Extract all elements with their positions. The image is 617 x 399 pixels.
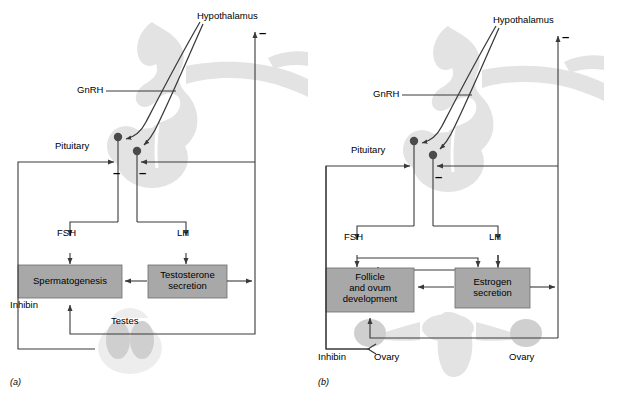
label-gnrh: GnRH [373,89,399,99]
minus-sign-pituitary-left: – [113,166,120,179]
label-ovary-left: Ovary [374,352,399,362]
box-label-follicle-line3: development [326,294,414,305]
label-pituitary: Pituitary [55,141,89,151]
nerve-terminal-dot-right [133,147,141,155]
label-hypothalamus: Hypothalamus [493,15,554,25]
panel-b-graphic [308,0,617,399]
box-label-testosterone-line2: secretion [148,281,227,292]
minus-sign-pituitary-right: – [435,170,442,183]
fsh-branch [357,226,414,240]
label-inhibin: Inhibin [318,352,346,362]
panel-b-female-axis: Hypothalamus GnRH Pituitary FSH LH Inhib… [308,0,616,399]
box-label-follicle-line1: Follicle [326,272,414,283]
box-label-follicle-line2: and ovum [326,283,414,294]
label-lh: LH [177,228,189,238]
panel-a-graphic [0,0,308,399]
label-pituitary: Pituitary [351,145,385,155]
label-testes: Testes [111,316,138,326]
box-label-testosterone-line1: Testosterone [148,270,227,281]
box-label-estrogen-line2: secretion [455,288,530,299]
label-ovary-right: Ovary [509,352,534,362]
nerve-terminal-dot-left [114,133,122,141]
anatomy-uterus-ovaries-silhouette [354,312,542,377]
label-fsh: FSH [57,228,76,238]
label-inhibin: Inhibin [10,300,38,310]
label-gnrh: GnRH [77,85,103,95]
minus-sign-pituitary-right: – [139,166,146,179]
fsh-branch [70,222,118,236]
box-label-spermatogenesis: Spermatogenesis [18,276,122,287]
panel-a-male-axis: Hypothalamus GnRH Pituitary FSH LH Inhib… [0,0,308,399]
nerve-terminal-dot-left [410,137,418,145]
nerve-terminal-dot-right [429,151,437,159]
box-label-estrogen-line1: Estrogen [455,277,530,288]
inhibin-feedback-to-pituitary [18,162,114,349]
label-lh: LH [489,232,501,242]
label-fsh: FSH [344,232,363,242]
panel-caption-b: (b) [318,377,329,387]
minus-sign-hypothalamus: – [259,26,266,39]
minus-sign-hypothalamus: – [562,30,569,43]
panel-caption-a: (a) [10,377,21,387]
fsh-to-estrogen [357,258,478,267]
label-hypothalamus: Hypothalamus [197,11,258,21]
